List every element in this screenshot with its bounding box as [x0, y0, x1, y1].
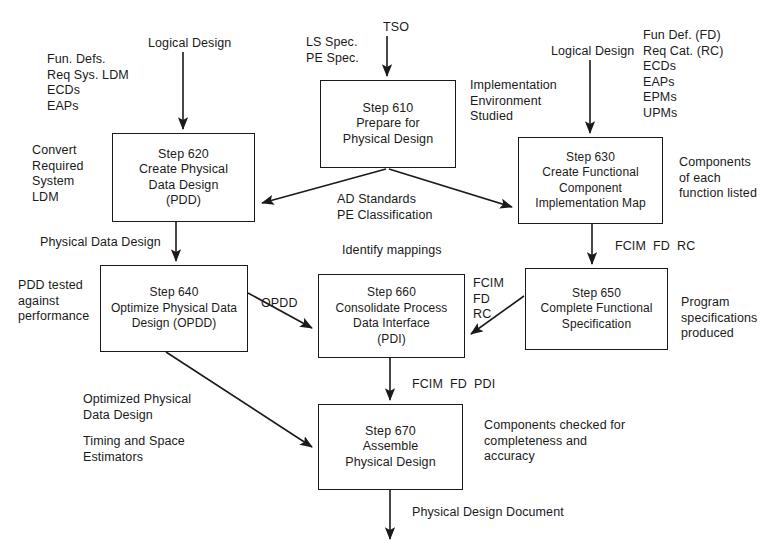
note-program-specifications-produced: Program specifications produced [681, 295, 757, 342]
node-step650[interactable]: Step 650 Complete Functional Specificati… [525, 268, 668, 350]
input-label-fun-def-fd-block: Fun Def. (FD) Req Cat. (RC) ECDs EAPs EP… [643, 28, 723, 121]
node-step660-line-2: Data Interface [353, 316, 430, 332]
node-step620-line-2: Data Design [149, 178, 219, 194]
flowchart-diagram: Step 610 Prepare for Physical Design Ste… [0, 0, 778, 553]
note-pdd-tested-against-performance: PDD tested against performance [18, 278, 89, 325]
node-step610-line-0: Step 610 [363, 101, 414, 117]
node-step620-line-3: (PDD) [166, 193, 201, 209]
edge-label-opdd: OPDD [261, 296, 298, 312]
note-identify-mappings: Identify mappings [342, 243, 442, 259]
edge-label-fcim-fd-rc-vertical: FCIM FD RC [615, 239, 695, 255]
node-step640-line-2: Design (OPDD) [132, 316, 217, 332]
edge-label-fcim-fd-rc-stacked: FCIM FD RC [473, 276, 504, 323]
node-step610-line-1: Prepare for [356, 116, 420, 132]
node-step660-line-1: Consolidate Process [336, 301, 448, 317]
node-step670[interactable]: Step 670 Assemble Physical Design [318, 404, 463, 490]
node-step670-line-0: Step 670 [365, 424, 416, 440]
node-step630-line-3: Implementation Map [535, 196, 646, 212]
output-label-physical-design-document: Physical Design Document [412, 505, 564, 521]
node-step650-line-2: Specification [562, 317, 631, 333]
input-label-tso: TSO [383, 20, 409, 36]
node-step620-line-1: Create Physical [139, 162, 228, 178]
node-step630-line-2: Component [559, 181, 622, 197]
node-step630-line-0: Step 630 [566, 150, 615, 166]
note-convert-required-system-ldm: Convert Required System LDM [32, 143, 84, 205]
edge-label-ad-standards-pe-classification: AD Standards PE Classification [337, 192, 433, 223]
note-optimized-physical-data-design: Optimized Physical Data Design [83, 392, 191, 423]
node-step640-line-0: Step 640 [150, 285, 199, 301]
node-step640[interactable]: Step 640 Optimize Physical Data Design (… [100, 265, 248, 352]
node-step610-line-2: Physical Design [343, 132, 433, 148]
node-step610[interactable]: Step 610 Prepare for Physical Design [320, 80, 456, 168]
node-step620[interactable]: Step 620 Create Physical Data Design (PD… [112, 133, 255, 222]
node-step630[interactable]: Step 630 Create Functional Component Imp… [518, 137, 663, 224]
node-step650-line-1: Complete Functional [541, 301, 653, 317]
node-step640-line-1: Optimize Physical Data [111, 301, 237, 317]
note-implementation-environment-studied: Implementation Environment Studied [470, 78, 557, 125]
node-step630-line-1: Create Functional [542, 165, 638, 181]
input-label-logical-design-620: Logical Design [148, 36, 231, 52]
node-step670-line-2: Physical Design [345, 455, 435, 471]
node-step670-line-1: Assemble [363, 439, 419, 455]
node-step620-line-0: Step 620 [158, 147, 209, 163]
edge-label-physical-data-design: Physical Data Design [40, 235, 161, 251]
node-step660-line-0: Step 660 [367, 285, 416, 301]
note-timing-and-space-estimators: Timing and Space Estimators [83, 434, 185, 465]
note-components-checked-for-completeness: Components checked for completeness and … [484, 418, 625, 465]
node-step660[interactable]: Step 660 Consolidate Process Data Interf… [318, 274, 465, 358]
node-step660-line-3: (PDI) [377, 332, 406, 348]
input-label-ls-pe-spec: LS Spec. PE Spec. [306, 35, 359, 66]
note-components-of-each-function-listed: Components of each function listed [679, 155, 757, 202]
node-step650-line-0: Step 650 [572, 286, 621, 302]
input-label-fun-defs-block: Fun. Defs. Req Sys. LDM ECDs EAPs [47, 52, 129, 114]
edge-label-fcim-fd-pdi: FCIM FD PDI [412, 377, 495, 393]
input-label-logical-design-630: Logical Design [551, 44, 634, 60]
